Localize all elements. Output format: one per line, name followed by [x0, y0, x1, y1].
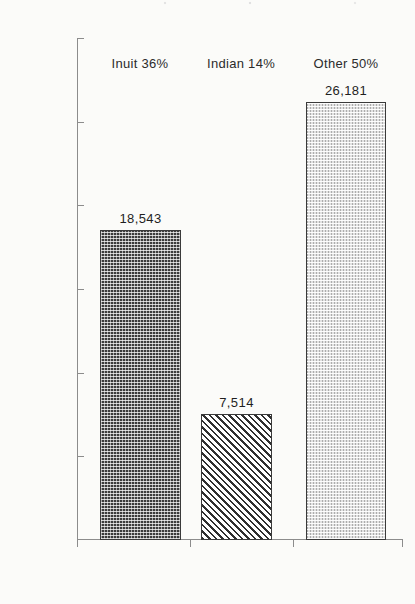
bar-value-inuit: 18,543 — [119, 211, 161, 226]
bar-indian[interactable]: 7,514 — [201, 414, 272, 540]
bar-other[interactable]: 26,181 — [306, 102, 386, 540]
x-tick-mark-3 — [402, 540, 403, 547]
category-group-indian: 7,514 Indian 14% — [190, 38, 293, 540]
x-tick-mark-1 — [190, 540, 191, 547]
bar-value-other: 26,181 — [325, 83, 367, 98]
x-axis-label-indian: Indian 14% — [207, 56, 275, 71]
plot-area: 18,543 Inuit 36% 7,514 Indian 14% 26,181… — [77, 38, 403, 540]
x-tick-mark-0 — [77, 540, 78, 547]
bar-chart-figure: 30,000 25,000 20,000 15,000 10,000 5,000… — [0, 0, 415, 604]
x-axis-label-inuit: Inuit 36% — [112, 56, 169, 71]
bar-value-indian: 7,514 — [219, 395, 254, 410]
category-group-inuit: 18,543 Inuit 36% — [77, 38, 190, 540]
x-axis-label-other: Other 50% — [314, 56, 379, 71]
x-tick-mark-2 — [293, 540, 294, 547]
category-group-other: 26,181 Other 50% — [293, 38, 403, 540]
scan-artifact — [0, 0, 415, 7]
bar-inuit[interactable]: 18,543 — [100, 230, 181, 540]
